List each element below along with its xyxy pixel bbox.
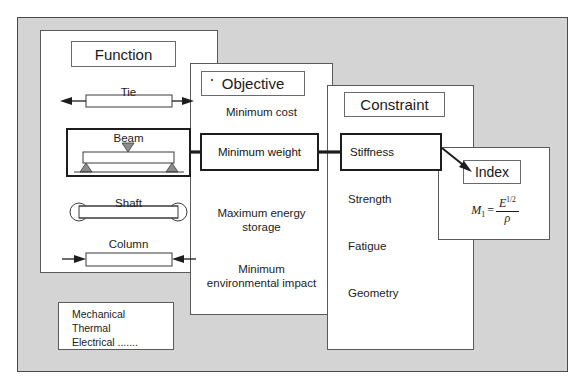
formula-equals: =: [487, 203, 494, 218]
constraint-item-stiffness[interactable]: Stiffness: [340, 133, 442, 171]
constraint-item-stiffness-label: Stiffness: [350, 146, 394, 158]
function-item-column-label: Column: [66, 237, 191, 251]
constraint-item-geometry-label: Geometry: [336, 286, 466, 300]
objective-item-minimum-weight[interactable]: Minimum weight: [200, 133, 319, 171]
formula-fraction: E1/2 ρ: [496, 196, 519, 226]
diagram-canvas: Function Tie Beam Shaft Column Objective…: [0, 0, 586, 390]
material-index-formula: M1 = E1/2 ρ: [455, 196, 535, 226]
formula-denominator: ρ: [496, 212, 519, 226]
function-item-beam-label: Beam: [66, 131, 191, 145]
objective-item-maximum-energy-storage-label: Maximum energy storage: [196, 206, 327, 235]
panel-title-constraint: Constraint: [344, 92, 445, 117]
panel-title-index: Index: [463, 160, 521, 184]
objective-item-minimum-environmental-impact-label: Minimum environmental impact: [190, 262, 333, 291]
function-item-tie-label: Tie: [66, 85, 191, 99]
panel-title-function: Function: [71, 41, 176, 67]
formula-numerator: E1/2: [496, 196, 519, 212]
domains-list-item-mechanical: Mechanical: [72, 307, 173, 321]
formula-lhs: M1: [471, 203, 485, 219]
panel-title-objective: Objective: [201, 71, 305, 96]
objective-item-minimum-cost-label: Minimum cost: [196, 105, 327, 119]
objective-bullet-dot: [211, 79, 213, 81]
function-item-shaft-label: Shaft: [66, 196, 191, 210]
domains-list-box: Mechanical Thermal Electrical .......: [58, 302, 174, 350]
domains-list-item-thermal: Thermal: [72, 321, 173, 335]
constraint-item-fatigue-label: Fatigue: [336, 239, 466, 253]
domains-list-item-electrical: Electrical .......: [72, 335, 173, 349]
objective-item-minimum-weight-label: Minimum weight: [218, 146, 301, 158]
